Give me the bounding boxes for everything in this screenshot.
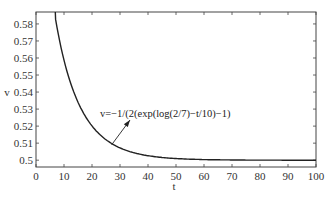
- x-tick-label: 100: [308, 170, 325, 182]
- x-tick-label: 90: [283, 170, 295, 182]
- y-tick-label: 0.57: [14, 35, 34, 47]
- axis-ticks: 01020304050607080901000.50.510.520.530.5…: [14, 12, 325, 182]
- x-axis-label: t: [172, 180, 175, 192]
- annotation-text: v=−1/(2(exp(log(2/7)−t/10)−1): [100, 108, 231, 120]
- y-tick-label: 0.51: [14, 137, 33, 149]
- y-tick-label: 0.55: [14, 69, 34, 81]
- y-tick-label: 0.5: [19, 154, 33, 166]
- y-tick-label: 0.54: [14, 86, 34, 98]
- y-tick-label: 0.56: [14, 52, 34, 64]
- arrow-head-icon: [124, 120, 130, 127]
- line-chart: 01020304050607080901000.50.510.520.530.5…: [0, 0, 332, 197]
- x-tick-label: 30: [115, 170, 127, 182]
- x-tick-label: 70: [227, 170, 239, 182]
- x-tick-label: 10: [59, 170, 71, 182]
- annotation: v=−1/(2(exp(log(2/7)−t/10)−1): [100, 108, 231, 145]
- x-tick-label: 20: [87, 170, 99, 182]
- y-tick-label: 0.52: [14, 120, 33, 132]
- x-tick-label: 80: [255, 170, 267, 182]
- y-tick-label: 0.58: [14, 18, 34, 30]
- y-axis-label: v: [4, 86, 10, 98]
- plot-frame: [36, 12, 316, 167]
- x-tick-label: 40: [143, 170, 155, 182]
- y-tick-label: 0.53: [14, 103, 34, 115]
- x-tick-label: 60: [199, 170, 211, 182]
- x-tick-label: 0: [33, 170, 39, 182]
- data-curve: [55, 12, 316, 160]
